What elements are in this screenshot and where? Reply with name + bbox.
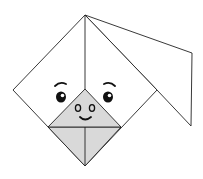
origami-dog-illustration (0, 0, 203, 179)
right-eye-icon (103, 92, 113, 103)
left-eye-icon (56, 92, 66, 103)
chin-shade (48, 127, 121, 166)
